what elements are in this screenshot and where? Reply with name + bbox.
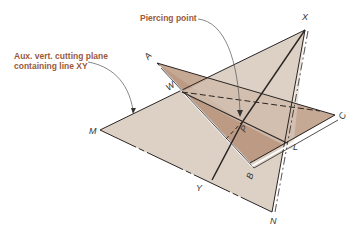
label-n: N [270, 216, 277, 226]
cutting-plane-callout-line2: containing line XY [14, 61, 108, 71]
cutting-plane-callout: Aux. vert. cutting plane containing line… [14, 51, 108, 71]
label-y: Y [196, 183, 202, 193]
piercing-point-diagram [0, 0, 364, 236]
label-l: L [293, 142, 298, 152]
label-m: M [89, 126, 97, 136]
piercing-point-callout: Piercing point [140, 13, 197, 23]
cutting-plane-callout-line1: Aux. vert. cutting plane [14, 51, 108, 61]
label-x: X [302, 12, 308, 22]
